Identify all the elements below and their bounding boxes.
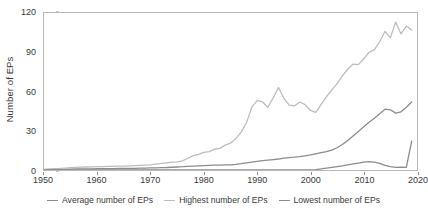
- x-axis-tick-mark: [311, 172, 312, 175]
- y-axis-tick: 60: [26, 87, 36, 96]
- series-line: [44, 22, 412, 169]
- legend-item[interactable]: Average number of EPs: [47, 196, 153, 205]
- y-axis-tick: 30: [26, 127, 36, 136]
- series-line: [44, 102, 412, 170]
- x-axis-tick: 2000: [301, 176, 321, 185]
- legend-label: Average number of EPs: [62, 196, 153, 205]
- y-axis-title-label: Number of EPs: [5, 56, 16, 122]
- plot-area: [43, 12, 418, 171]
- x-axis-tick-mark: [43, 172, 44, 175]
- x-axis-tick-mark: [257, 172, 258, 175]
- legend-line-icon: [164, 200, 175, 201]
- legend-line-icon: [47, 200, 58, 201]
- y-axis-tick: 120: [21, 8, 36, 17]
- x-axis-tick: 1950: [33, 176, 53, 185]
- legend-item[interactable]: Lowest number of EPs: [279, 196, 380, 205]
- x-axis-tick: 2020: [408, 176, 428, 185]
- x-axis-tick-mark: [418, 172, 419, 175]
- legend-label: Highest number of EPs: [179, 196, 267, 205]
- series-line: [44, 141, 412, 170]
- plot-lines: [44, 13, 417, 170]
- x-axis-tick: 1990: [247, 176, 267, 185]
- x-axis-tick: 1960: [87, 176, 107, 185]
- legend-line-icon: [279, 200, 290, 201]
- legend-item[interactable]: Highest number of EPs: [164, 196, 267, 205]
- x-axis-tick-mark: [364, 172, 365, 175]
- y-axis-tick-labels: 0306090120: [16, 0, 40, 178]
- chart-legend: Average number of EPsHighest number of E…: [0, 196, 427, 205]
- x-axis-tick: 1970: [140, 176, 160, 185]
- x-axis-tick-labels: 19501960197019801990200020102020: [43, 172, 418, 188]
- x-axis-tick-mark: [150, 172, 151, 175]
- x-axis-tick-mark: [204, 172, 205, 175]
- y-axis-tick: 90: [26, 47, 36, 56]
- x-axis-tick-mark: [97, 172, 98, 175]
- legend-label: Lowest number of EPs: [294, 196, 380, 205]
- x-axis-tick: 2010: [354, 176, 374, 185]
- x-axis-tick: 1980: [194, 176, 214, 185]
